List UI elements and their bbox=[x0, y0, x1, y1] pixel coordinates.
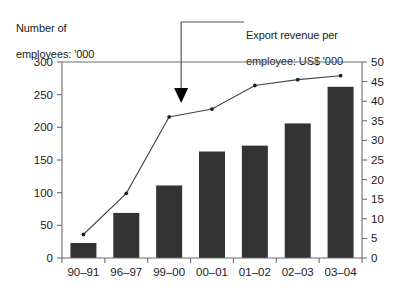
right-tick-label: 10 bbox=[371, 213, 384, 225]
line-marker bbox=[124, 191, 128, 195]
line-marker bbox=[167, 115, 171, 119]
line-marker bbox=[82, 233, 86, 237]
right-tick-label: 45 bbox=[371, 76, 384, 88]
category-label: 03–04 bbox=[325, 266, 358, 278]
plot-area: 050100150200250300 05101520253035404550 … bbox=[0, 0, 412, 296]
category-label: 90–91 bbox=[67, 266, 99, 278]
bar bbox=[285, 123, 311, 258]
bar bbox=[70, 243, 96, 258]
right-tick-label: 25 bbox=[371, 154, 384, 166]
right-tick-label: 35 bbox=[371, 115, 384, 127]
arrow-head-icon bbox=[174, 88, 188, 103]
left-tick-label: 150 bbox=[34, 154, 53, 166]
right-tick-label: 40 bbox=[371, 95, 384, 107]
right-tick-label: 15 bbox=[371, 193, 384, 205]
line-marker bbox=[296, 78, 300, 82]
line-marker bbox=[210, 107, 214, 111]
left-tick-label: 100 bbox=[34, 187, 53, 199]
right-tick-label: 20 bbox=[371, 174, 384, 186]
left-tick-label: 50 bbox=[40, 219, 53, 231]
left-tick-label: 300 bbox=[34, 56, 53, 68]
line-marker bbox=[253, 84, 257, 88]
bar bbox=[242, 146, 268, 258]
category-label: 02–03 bbox=[282, 266, 314, 278]
right-axis: 05101520253035404550 bbox=[362, 56, 384, 264]
left-axis: 050100150200250300 bbox=[34, 56, 62, 264]
left-tick-label: 250 bbox=[34, 89, 53, 101]
category-label: 01–02 bbox=[239, 266, 271, 278]
right-tick-label: 5 bbox=[371, 232, 377, 244]
bar bbox=[328, 87, 354, 258]
bar-series bbox=[70, 87, 353, 258]
category-axis: 90–9196–9799–0000–0101–0202–0303–04 bbox=[62, 258, 362, 278]
left-tick-label: 200 bbox=[34, 121, 53, 133]
category-label: 00–01 bbox=[196, 266, 228, 278]
category-label: 99–00 bbox=[153, 266, 185, 278]
bar bbox=[199, 152, 225, 258]
bar bbox=[156, 185, 182, 258]
left-tick-label: 0 bbox=[47, 252, 53, 264]
line-marker bbox=[339, 74, 343, 78]
category-label: 96–97 bbox=[110, 266, 142, 278]
right-tick-label: 30 bbox=[371, 134, 384, 146]
chart-figure: Number of employees: '000 Export revenue… bbox=[0, 0, 412, 296]
right-tick-label: 0 bbox=[371, 252, 377, 264]
bar bbox=[113, 213, 139, 258]
right-tick-label: 50 bbox=[371, 56, 384, 68]
